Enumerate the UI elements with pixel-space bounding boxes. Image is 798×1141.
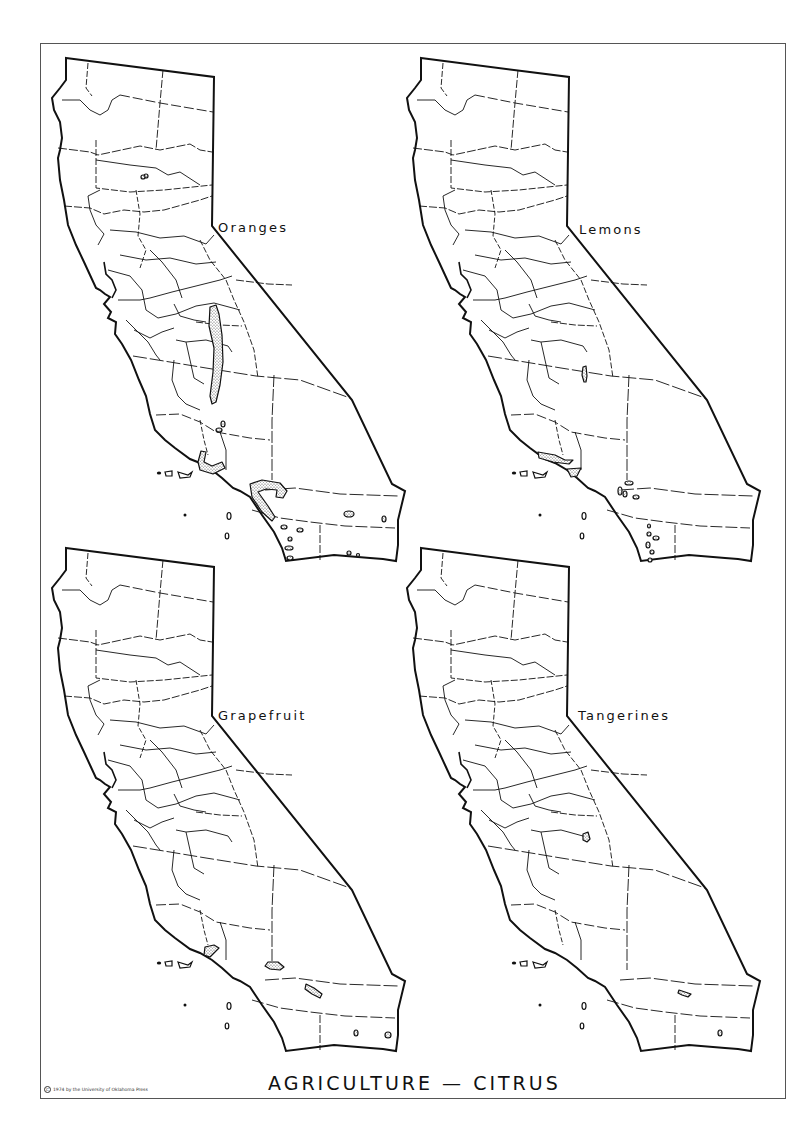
growing-area [648,524,651,528]
growing-area [625,481,633,485]
growing-area [650,550,654,554]
growing-area [618,487,622,495]
copyright-text: 1974 by the University of Oklahoma Press [53,1087,148,1092]
growing-area [583,832,590,842]
map-grapefruit [52,548,405,1051]
label-tangerines: Tangerines [578,708,670,723]
growing-area [718,1030,722,1036]
copyright-icon: C [44,1086,51,1093]
growing-area [567,468,581,477]
growing-area [646,542,650,548]
label-grapefruit: Grapefruit [218,708,307,723]
growing-area [382,516,386,522]
map-tangerines [407,548,760,1051]
growing-area [141,175,145,179]
growing-area [221,421,225,427]
growing-area [347,551,351,555]
growing-area [297,528,303,532]
growing-area [678,990,691,997]
growing-area [216,428,222,432]
growing-area [633,495,639,499]
growing-area [357,554,360,557]
growing-area [354,1030,358,1036]
growing-area [281,525,287,529]
growing-area [344,511,354,517]
growing-area [385,1032,391,1038]
growing-area [285,546,293,550]
label-oranges: Oranges [218,220,288,235]
growing-area [538,452,573,464]
copyright-notice: C1974 by the University of Oklahoma Pres… [44,1086,148,1093]
growing-area [305,984,322,998]
label-lemons: Lemons [579,222,643,237]
growing-area [653,536,659,540]
growing-area [647,532,651,536]
growing-area [287,556,293,560]
map-lemons [407,58,760,562]
growing-area [250,480,287,521]
citrus-maps [0,0,798,1141]
growing-area [198,451,225,474]
map-oranges [52,58,405,561]
growing-area [623,491,627,497]
growing-area [288,537,292,541]
page-title: AGRICULTURE — CITRUS [268,1072,561,1094]
growing-area [265,962,284,970]
growing-area [209,305,223,404]
growing-area [582,366,587,382]
growing-area [204,945,219,957]
growing-area [648,558,652,562]
